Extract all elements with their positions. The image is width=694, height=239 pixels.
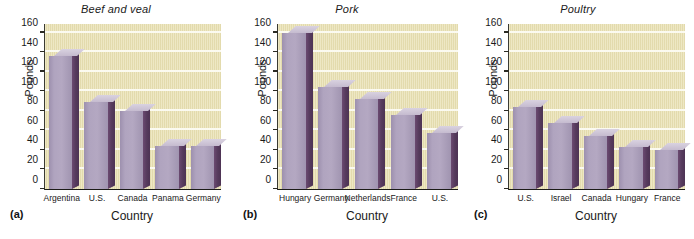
y-axis-tick-label: 80 <box>260 95 271 106</box>
bar-top-face <box>360 92 392 99</box>
y-axis-tick-label: 40 <box>260 134 271 145</box>
x-axis-label-b: Country <box>277 209 457 223</box>
bar-front-face <box>120 111 143 189</box>
bar-front-face <box>655 150 678 189</box>
y-axis-tick <box>273 90 278 91</box>
y-axis-tick <box>273 149 278 150</box>
y-axis-tick-label: 120 <box>485 56 502 67</box>
y-axis-tick-label: 20 <box>260 153 271 164</box>
bar-front-face <box>548 123 571 189</box>
bar-top-face <box>324 80 356 87</box>
y-axis-tick <box>40 188 45 189</box>
x-axis-tick-label: U.S. <box>517 193 534 203</box>
three-panel-bar-figure: Beef and veal Pounds 0204060801001201401… <box>0 0 694 239</box>
bar-side-face <box>72 53 79 189</box>
y-axis-tick <box>40 168 45 169</box>
y-axis-tick <box>504 90 509 91</box>
y-axis-tick <box>40 90 45 91</box>
bar-side-face <box>108 99 115 189</box>
bar <box>318 87 342 189</box>
plot-area-b: 020406080100120140160 <box>277 24 458 190</box>
y-axis-tick-label: 0 <box>496 173 502 184</box>
x-axis-tick-label: France <box>654 193 680 203</box>
bar <box>155 146 178 189</box>
chart-panel-b: Pork Pounds 020406080100120140160 Countr… <box>229 0 465 239</box>
bar-top-face <box>432 126 464 133</box>
bar-top-face <box>554 116 585 123</box>
bar <box>355 99 379 189</box>
y-axis-tick <box>40 110 45 111</box>
y-axis-tick-label: 0 <box>32 173 38 184</box>
y-axis-tick-label: 80 <box>491 95 502 106</box>
y-axis-tick-label: 140 <box>21 36 38 47</box>
x-axis-tick-label: Canada <box>118 193 148 203</box>
bar <box>49 56 72 189</box>
bar-front-face <box>513 107 536 189</box>
y-axis-tick <box>273 31 278 32</box>
bar-front-face <box>318 87 342 189</box>
chart-panel-c: Poultry Pounds 020406080100120140160 Cou… <box>462 0 694 239</box>
y-axis-tick-label: 120 <box>254 56 271 67</box>
bar-side-face <box>678 147 685 189</box>
bar-top-face <box>396 108 428 115</box>
bar-top-face <box>54 49 85 56</box>
bar-side-face <box>643 144 650 189</box>
bar-side-face <box>378 96 385 189</box>
bar-front-face <box>584 136 607 189</box>
bar-side-face <box>415 111 422 189</box>
y-axis-tick-label: 100 <box>254 75 271 86</box>
y-axis-tick <box>504 51 509 52</box>
y-axis-tick <box>40 70 45 71</box>
y-axis-tick-label: 40 <box>491 134 502 145</box>
chart-title-c: Poultry <box>462 3 694 15</box>
bar <box>282 33 306 189</box>
y-axis-tick-label: 20 <box>27 153 38 164</box>
chart-title-b: Pork <box>229 3 465 15</box>
bar-top-face <box>518 100 549 107</box>
bar <box>655 150 678 189</box>
bar-front-face <box>619 147 642 189</box>
bar-side-face <box>451 130 458 189</box>
y-axis-tick-label: 140 <box>254 36 271 47</box>
y-axis-tick <box>504 168 509 169</box>
x-axis-tick-label: U.S. <box>432 193 449 203</box>
bar-front-face <box>191 146 214 189</box>
y-axis-tick <box>273 168 278 169</box>
bar-top-face <box>196 139 227 146</box>
x-axis-tick-label: Canada <box>582 193 612 203</box>
plot-area-a: 020406080100120140160 <box>44 24 221 190</box>
panel-tag-c: (c) <box>474 208 487 220</box>
bar-side-face <box>572 119 579 189</box>
x-axis-tick-label: Israel <box>551 193 572 203</box>
bar <box>584 136 607 189</box>
y-axis-tick <box>504 149 509 150</box>
bar <box>513 107 536 189</box>
bar <box>391 115 415 189</box>
bar-side-face <box>214 143 221 189</box>
bar-side-face <box>607 133 614 189</box>
bar-group-c <box>509 24 685 189</box>
y-axis-tick <box>273 70 278 71</box>
y-axis-tick-label: 80 <box>27 95 38 106</box>
bar-side-face <box>342 84 349 189</box>
bar-side-face <box>536 104 543 189</box>
bar-front-face <box>355 99 379 189</box>
y-axis-tick-label: 160 <box>21 17 38 28</box>
x-axis-tick-label: Hungary <box>279 193 311 203</box>
x-axis-tick-label: Germany <box>314 193 349 203</box>
y-axis-tick <box>40 51 45 52</box>
x-axis-tick-label: France <box>390 193 416 203</box>
bar <box>191 146 214 189</box>
y-axis-tick <box>504 188 509 189</box>
chart-title-a: Beef and veal <box>0 3 232 15</box>
y-axis-tick <box>273 51 278 52</box>
y-axis-tick-label: 60 <box>491 114 502 125</box>
bar <box>427 133 451 189</box>
bar-group-b <box>278 24 458 189</box>
y-axis-tick-label: 140 <box>485 36 502 47</box>
bar-top-face <box>90 95 121 102</box>
panel-tag-a: (a) <box>10 208 23 220</box>
bar-top-face <box>288 26 320 33</box>
x-axis-tick-label: Germany <box>186 193 221 203</box>
y-axis-tick-label: 60 <box>260 114 271 125</box>
